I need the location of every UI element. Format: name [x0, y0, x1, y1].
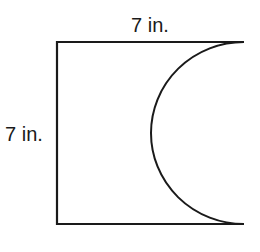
left-side-label: 7 in.	[5, 123, 43, 145]
top-side-label: 7 in.	[131, 14, 169, 36]
figure: 7 in. 7 in.	[0, 0, 260, 252]
semicircle-arc	[151, 42, 244, 224]
